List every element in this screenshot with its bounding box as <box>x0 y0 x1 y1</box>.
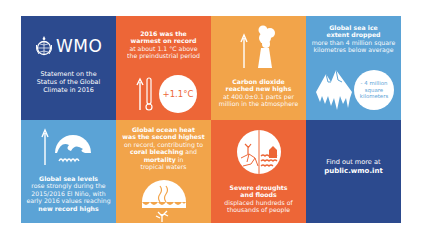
sea-level-text: Global sea levels rose strongly during t… <box>21 175 116 212</box>
find-out-more-label: Find out more at <box>306 158 401 167</box>
subtitle-line: Statement on the <box>25 70 112 78</box>
emphasis-text: mortality <box>144 156 176 163</box>
ocean-heat-text: Global ocean heat was the second highest… <box>116 126 211 170</box>
logo-text: WMO <box>56 36 102 56</box>
detail-line: tropical waters <box>116 163 211 170</box>
drought-flood-icon <box>235 128 283 176</box>
thermometer-up-icon <box>136 76 156 112</box>
sea-ice-text: Global sea ice extent dropped more than … <box>306 24 401 54</box>
headline-line: Global sea ice <box>306 24 401 31</box>
headline-line: Severe droughts <box>211 184 306 191</box>
detail-line: early 2016 values reaching <box>21 197 116 204</box>
wmo-title-tile: WMO Statement on the Status of the Globa… <box>21 16 116 120</box>
sea-ice-badge-text: - 4 million square kilometers <box>360 80 388 100</box>
website-link[interactable]: public.wmo.int <box>306 167 401 176</box>
headline-line: Global ocean heat <box>116 126 211 133</box>
detail-line: at about 1.1 °C above <box>116 45 211 52</box>
more-info-text: Find out more at public.wmo.int <box>306 158 401 176</box>
headline-line: warmest on record <box>116 37 211 44</box>
smokestack-up-icon <box>239 24 279 70</box>
detail-line: kilometres below average <box>306 46 401 53</box>
co2-tile: Carbon dioxide reached new highs at 400.… <box>211 16 306 120</box>
sea-ice-badge: - 4 million square kilometers <box>354 70 394 110</box>
detail-line: displaced hundreds of <box>211 199 306 206</box>
badge-line: square <box>360 87 388 94</box>
more-info-tile: Find out more at public.wmo.int <box>306 120 401 223</box>
droughts-floods-tile: Severe droughts and floods displaced hun… <box>211 120 306 223</box>
headline-line: extent dropped <box>306 31 401 38</box>
sea-ice-tile: Global sea ice extent dropped more than … <box>306 16 401 120</box>
hot-ocean-coral-icon <box>140 178 188 222</box>
headline-line: Carbon dioxide <box>211 78 306 85</box>
co2-text: Carbon dioxide reached new highs at 400.… <box>211 78 306 108</box>
subtitle-line: Climate in 2016 <box>25 86 112 94</box>
headline-line: Global sea levels <box>21 175 116 182</box>
ocean-heat-tile: Global ocean heat was the second highest… <box>116 120 211 223</box>
badge-line: - 4 million <box>360 80 388 87</box>
detail-text: and <box>183 148 197 155</box>
sea-level-tile: Global sea levels rose strongly during t… <box>21 120 116 223</box>
detail-line: rose strongly during the <box>21 182 116 189</box>
detail-line: at 400.0±0.1 parts per <box>211 93 306 100</box>
wmo-logo: WMO <box>35 36 102 56</box>
droughts-text: Severe droughts and floods displaced hun… <box>211 184 306 214</box>
temperature-tile: 2016 was the warmest on record at about … <box>116 16 211 120</box>
headline-line: 2016 was the <box>116 30 211 37</box>
statement-subtitle: Statement on the Status of the Global Cl… <box>25 70 112 94</box>
subtitle-line: Status of the Global <box>25 78 112 86</box>
detail-line: 2015/2016 El Niño, with <box>21 190 116 197</box>
infographic-grid: WMO Statement on the Status of the Globa… <box>21 16 401 223</box>
headline-line: was the second highest <box>116 133 211 140</box>
emphasis-line: new record highs <box>21 205 116 212</box>
detail-text: in <box>176 156 184 163</box>
detail-line: the preindustrial period <box>116 52 211 59</box>
headline-line: and floods <box>211 191 306 198</box>
badge-line: kilometers <box>360 93 388 100</box>
temperature-badge: +1.1°C <box>159 75 197 113</box>
melting-iceberg-icon <box>314 68 354 112</box>
rising-waves-icon <box>39 127 99 167</box>
temperature-value: +1.1°C <box>163 89 194 99</box>
emphasis-text: coral bleaching <box>130 148 183 155</box>
detail-line: thousands of people <box>211 206 306 213</box>
detail-line: million in the atmosphere <box>211 100 306 107</box>
detail-line: more than 4 million square <box>306 39 401 46</box>
wmo-emblem-icon <box>35 36 53 56</box>
headline-line: reached new highs <box>211 85 306 92</box>
temperature-text: 2016 was the warmest on record at about … <box>116 30 211 60</box>
